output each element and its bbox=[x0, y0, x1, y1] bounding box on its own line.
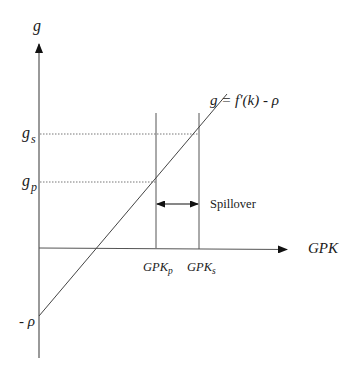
gp-label: gp bbox=[22, 172, 37, 194]
spillover-diagram: g GPK g = f'(k) - ρ gs gp - ρ GPKp GPKs … bbox=[0, 0, 342, 378]
x-axis-label: GPK bbox=[308, 240, 339, 256]
spillover-label: Spillover bbox=[210, 197, 257, 211]
curve-label: g = f'(k) - ρ bbox=[210, 92, 279, 109]
minus-rho-label: - ρ bbox=[19, 313, 35, 329]
x-axis bbox=[39, 248, 287, 250]
gpk-s-label: GPKs bbox=[187, 260, 216, 276]
gpk-p-label: GPKp bbox=[143, 260, 173, 276]
gs-label: gs bbox=[22, 124, 36, 146]
y-axis-label: g bbox=[33, 17, 41, 35]
